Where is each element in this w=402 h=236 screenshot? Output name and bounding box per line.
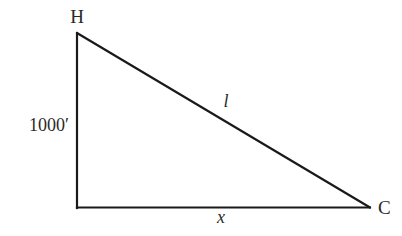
- hypotenuse-side: [77, 33, 370, 208]
- base-label: x: [216, 207, 225, 227]
- vertex-label-h: H: [70, 6, 84, 27]
- vertical-side-label: 1000′: [29, 115, 69, 135]
- vertex-label-c: C: [378, 197, 391, 218]
- right-triangle-diagram: H C 1000′ l x: [0, 0, 402, 236]
- hypotenuse-label: l: [223, 91, 228, 111]
